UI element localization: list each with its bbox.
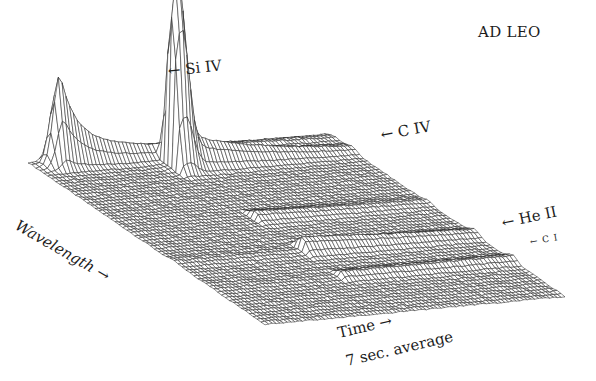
surface-plot <box>0 0 596 381</box>
chart-title: AD LEO <box>478 25 541 40</box>
